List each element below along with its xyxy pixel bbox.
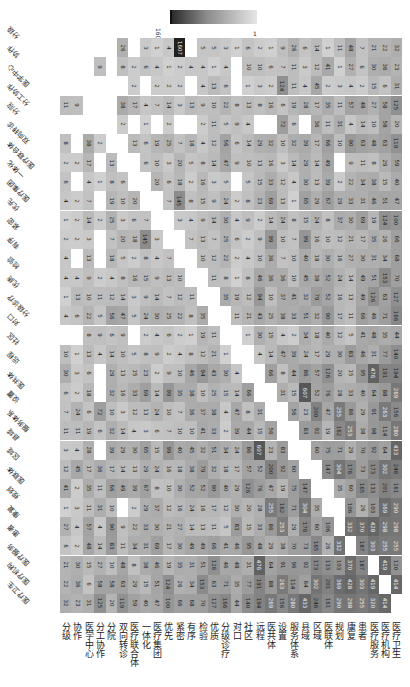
- heatmap-cell: 35: [322, 96, 333, 115]
- heatmap-cell: 95: [356, 364, 367, 383]
- heatmap-cell: 52: [197, 479, 208, 498]
- heatmap-cell: 30: [231, 498, 242, 517]
- heatmap-cell: 6: [83, 364, 94, 383]
- heatmap-cell: 13: [128, 460, 139, 479]
- colorbar: [170, 10, 257, 24]
- heatmap-cell: 269: [391, 383, 402, 402]
- heatmap-cell: 14: [185, 517, 196, 536]
- heatmap-cell: 39: [231, 421, 242, 440]
- heatmap-cell: 119: [391, 134, 402, 153]
- heatmap-cell: 37: [197, 402, 208, 421]
- heatmap-cell: 34: [220, 441, 231, 460]
- heatmap-cell: 126: [242, 479, 253, 498]
- heatmap-cell: 6: [83, 575, 94, 594]
- heatmap-cell: 1: [94, 172, 105, 191]
- column-label: 康复: [345, 622, 356, 640]
- heatmap-cell: 11: [288, 76, 299, 95]
- heatmap-cell: 35: [83, 479, 94, 498]
- heatmap-cell: 9: [254, 230, 265, 249]
- heatmap-cell: 99: [163, 441, 174, 460]
- heatmap-cell: [151, 211, 162, 230]
- heatmap-cell: 83: [106, 536, 117, 555]
- heatmap-cell: [106, 115, 117, 134]
- heatmap-cell: 35: [311, 498, 322, 517]
- heatmap-cell: 9: [345, 153, 356, 172]
- heatmap-cell: 63: [356, 134, 367, 153]
- heatmap-cell: 14: [311, 38, 322, 57]
- heatmap-cell: 17: [83, 153, 94, 172]
- heatmap-cell: 16: [197, 498, 208, 517]
- heatmap-cell: 9: [242, 211, 253, 230]
- heatmap-cell: 8: [220, 268, 231, 287]
- heatmap-cell: 127: [208, 594, 219, 613]
- heatmap-cell: 2: [334, 172, 345, 191]
- heatmap-cell: [71, 172, 82, 191]
- heatmap-cell: 20: [128, 191, 139, 210]
- heatmap-cell: 16: [334, 249, 345, 268]
- heatmap-cell: 16: [334, 287, 345, 306]
- heatmap-cell: 1: [60, 498, 71, 517]
- heatmap-cell: 30: [254, 326, 265, 345]
- heatmap-cell: 26: [117, 38, 128, 57]
- heatmap-cell: 34: [356, 172, 367, 191]
- heatmap-cell: 32: [208, 460, 219, 479]
- heatmap-cell: 12: [242, 287, 253, 306]
- heatmap-cell: 162: [334, 421, 345, 440]
- heatmap-cell: 2: [71, 479, 82, 498]
- heatmap-cell: 1: [220, 345, 231, 364]
- heatmap-cell: 127: [391, 287, 402, 306]
- heatmap-cell: 18: [311, 326, 322, 345]
- heatmap-cell: 194: [391, 364, 402, 383]
- heatmap-cell: 16: [265, 153, 276, 172]
- heatmap-cell: 52: [311, 383, 322, 402]
- heatmap-cell: 15: [140, 268, 151, 287]
- heatmap-cell: 1: [60, 211, 71, 230]
- heatmap-cell: 38: [140, 556, 151, 575]
- heatmap-cell: 35: [197, 306, 208, 325]
- heatmap-cell: 10: [174, 268, 185, 287]
- heatmap-cell: 31: [334, 115, 345, 134]
- heatmap-cell: 17: [311, 134, 322, 153]
- heatmap-cell: 3: [128, 287, 139, 306]
- heatmap-cell: 5: [197, 38, 208, 57]
- heatmap-cell: 5: [117, 249, 128, 268]
- heatmap-cell: 29: [117, 441, 128, 460]
- colorbar-min-label: 1: [253, 30, 257, 37]
- heatmap-cell: 91: [368, 402, 379, 421]
- heatmap-cell: 47: [117, 306, 128, 325]
- heatmap-cell: 2: [151, 76, 162, 95]
- heatmap-cell: 8: [140, 249, 151, 268]
- heatmap-cell: 100: [163, 594, 174, 613]
- heatmap-cell: [254, 115, 265, 134]
- heatmap-cell: 45: [71, 460, 82, 479]
- heatmap-cell: 79: [197, 460, 208, 479]
- heatmap-cell: 26: [322, 536, 333, 555]
- heatmap-cell: 2: [128, 76, 139, 95]
- heatmap-cell: 11: [60, 96, 71, 115]
- heatmap-cell: 6: [265, 57, 276, 76]
- heatmap-cell: 2: [71, 211, 82, 230]
- heatmap-cell: [71, 249, 82, 268]
- heatmap-cell: 19: [151, 134, 162, 153]
- heatmap-cell: 4: [140, 96, 151, 115]
- heatmap-cell: 37: [334, 211, 345, 230]
- heatmap-cell: 36: [94, 460, 105, 479]
- heatmap-cell: 246: [391, 460, 402, 479]
- heatmap-cell: 7: [277, 57, 288, 76]
- column-label: 县域: [299, 622, 310, 640]
- heatmap-cell: 13: [197, 230, 208, 249]
- heatmap-cell: 4: [197, 57, 208, 76]
- heatmap-cell: 370: [345, 556, 356, 575]
- heatmap-cell: 15: [299, 211, 310, 230]
- heatmap-cell: 304: [334, 460, 345, 479]
- heatmap-cell: 14: [311, 153, 322, 172]
- heatmap-cell: 16: [117, 383, 128, 402]
- heatmap-cell: [94, 153, 105, 172]
- heatmap-cell: [334, 153, 345, 172]
- heatmap-cell: 17: [163, 536, 174, 555]
- heatmap-cell: 9: [117, 326, 128, 345]
- heatmap-cell: 58: [379, 96, 390, 115]
- heatmap-cell: 8: [185, 191, 196, 210]
- heatmap-cell: 31: [356, 191, 367, 210]
- heatmap-cell: 253: [277, 517, 288, 536]
